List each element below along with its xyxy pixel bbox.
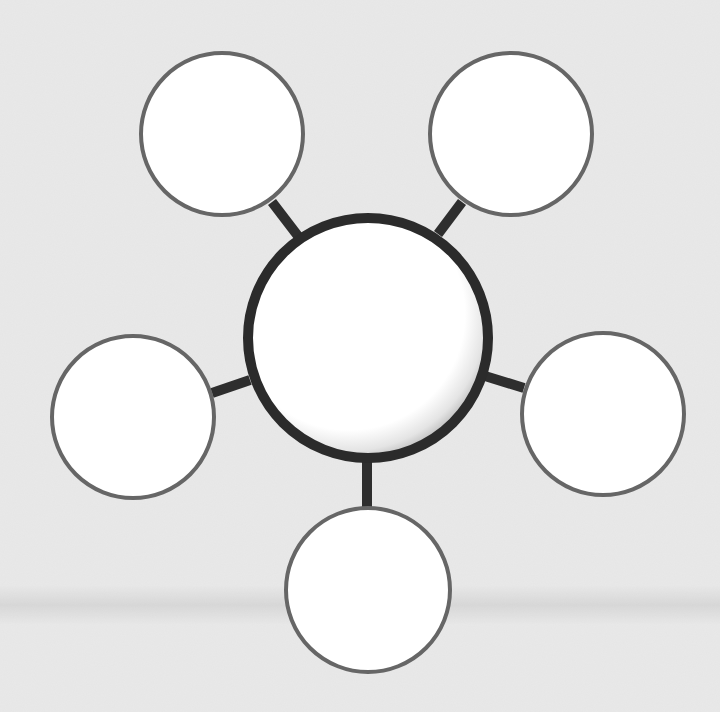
node-top-right[interactable] [430, 53, 592, 215]
diagram-svg [0, 0, 720, 722]
node-top-left[interactable] [141, 53, 303, 215]
bubble-map-diagram [0, 0, 720, 722]
bottom-strip [0, 712, 720, 722]
center-node[interactable] [248, 218, 488, 458]
node-right[interactable] [522, 333, 684, 495]
node-left[interactable] [52, 336, 214, 498]
node-bottom[interactable] [286, 508, 450, 672]
